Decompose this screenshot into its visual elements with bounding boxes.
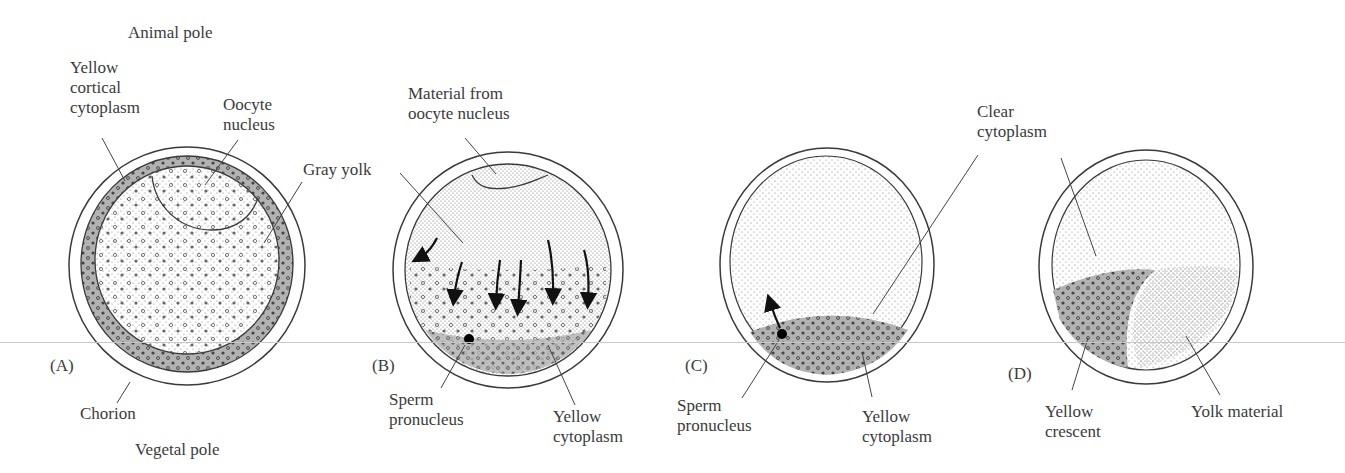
panel-tag-a: (A) — [50, 356, 74, 376]
scan-artifact-line — [0, 342, 1345, 343]
label-animal-pole: Animal pole — [128, 23, 213, 43]
label-oocyte-nucleus: Oocyte nucleus — [223, 95, 275, 135]
sperm-pronucleus-dot — [777, 329, 787, 339]
panel-b-egg — [393, 138, 623, 405]
label-yellow-cortical-cytoplasm: Yellow cortical cytoplasm — [70, 58, 140, 118]
panel-a-egg — [69, 138, 305, 403]
label-yellow-crescent: Yellow crescent — [1045, 402, 1101, 442]
panel-tag-b: (B) — [372, 356, 395, 376]
label-material-from-oocyte-nucleus: Material from oocyte nucleus — [408, 84, 510, 124]
panel-c-egg — [720, 148, 978, 398]
label-sperm-pronucleus-b: Sperm pronucleus — [389, 390, 464, 430]
label-vegetal-pole: Vegetal pole — [135, 440, 220, 460]
label-gray-yolk: Gray yolk — [303, 160, 371, 180]
figure-canvas — [0, 0, 1345, 473]
label-chorion: Chorion — [80, 404, 136, 424]
label-yolk-material: Yolk material — [1191, 402, 1283, 422]
panel-tag-c: (C) — [685, 356, 708, 376]
label-sperm-pronucleus-c: Sperm pronucleus — [677, 396, 752, 436]
label-clear-cytoplasm: Clear cytoplasm — [977, 102, 1047, 142]
leader-line — [117, 382, 130, 403]
panel-tag-d: (D) — [1008, 364, 1032, 384]
label-yellow-cytoplasm-b: Yellow cytoplasm — [553, 407, 623, 447]
panel-d-egg — [1039, 150, 1253, 395]
label-yellow-cytoplasm-c: Yellow cytoplasm — [862, 407, 932, 447]
